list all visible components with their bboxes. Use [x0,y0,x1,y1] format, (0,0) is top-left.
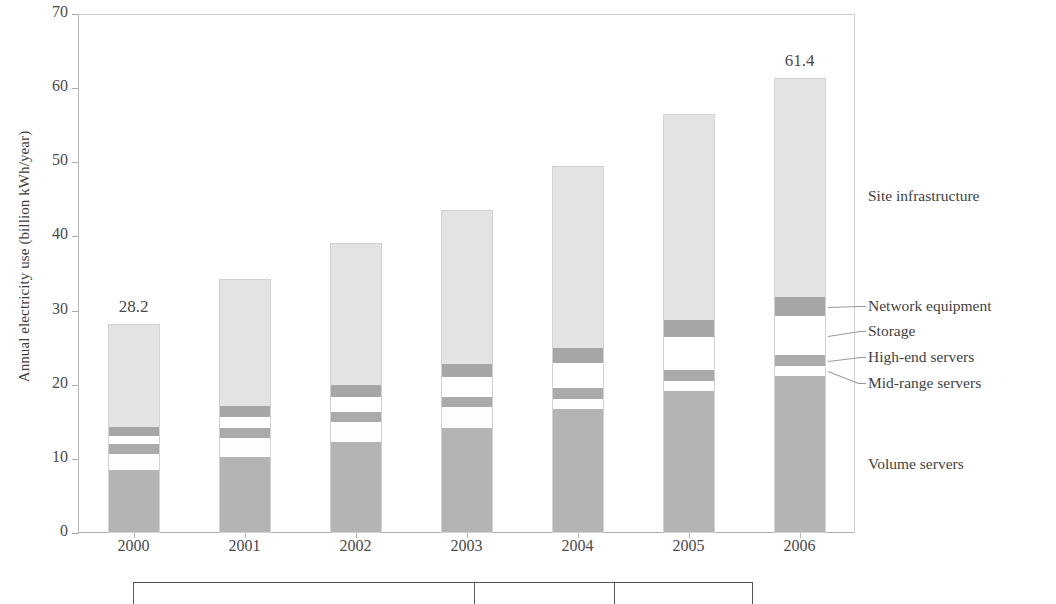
bar-segment-storage[interactable] [219,417,271,429]
footer-table-stub [133,582,753,604]
y-tick-label: 50 [22,151,68,169]
bar-segment-site-infrastructure[interactable] [441,210,493,364]
y-tick-label: 40 [22,225,68,243]
x-tick-label-2006: 2006 [755,537,845,555]
bar-segment-storage[interactable] [663,337,715,370]
bar-segment-storage[interactable] [441,377,493,396]
bar-segment-mid-range-servers[interactable] [552,399,604,409]
bar-segment-network-equipment[interactable] [330,385,382,397]
bar-segment-mid-range-servers[interactable] [108,454,160,470]
bar-segment-site-infrastructure[interactable] [663,114,715,320]
x-tick-label-2000: 2000 [89,537,179,555]
chart-canvas: Annual electricity use (billion kWh/year… [0,0,1056,604]
bar-2004[interactable] [552,166,604,533]
bar-segment-site-infrastructure[interactable] [219,279,271,407]
bar-2002[interactable] [330,243,382,533]
bar-2001[interactable] [219,279,271,533]
legend-leader-tick [858,331,866,332]
bar-segment-network-equipment[interactable] [219,406,271,416]
bar-segment-volume-servers[interactable] [330,442,382,533]
bar-segment-high-end-servers[interactable] [774,355,826,366]
bar-segment-network-equipment[interactable] [663,320,715,337]
bar-2000[interactable] [108,324,160,533]
bar-segment-network-equipment[interactable] [108,427,160,436]
bar-segment-mid-range-servers[interactable] [441,407,493,429]
bar-value-label-2006: 61.4 [755,51,845,71]
legend-label-site-infrastructure[interactable]: Site infrastructure [868,187,979,205]
table-column-divider-2 [614,583,615,604]
bar-2006[interactable] [774,78,826,533]
y-axis-title: Annual electricity use (billion kWh/year… [16,47,33,467]
bar-segment-high-end-servers[interactable] [108,444,160,454]
x-tick-label-2005: 2005 [644,537,734,555]
bar-segment-high-end-servers[interactable] [219,428,271,438]
bar-value-label-2000: 28.2 [89,297,179,317]
x-tick-label-2004: 2004 [533,537,623,555]
bar-segment-network-equipment[interactable] [552,348,604,363]
legend-label-volume-servers[interactable]: Volume servers [868,455,964,473]
bar-segment-volume-servers[interactable] [219,457,271,533]
bar-segment-volume-servers[interactable] [441,428,493,533]
bar-segment-site-infrastructure[interactable] [108,324,160,427]
bar-segment-mid-range-servers[interactable] [330,422,382,442]
bar-segment-high-end-servers[interactable] [663,370,715,381]
bar-segment-volume-servers[interactable] [552,409,604,533]
legend-label-high-end-servers[interactable]: High-end servers [868,348,974,366]
y-tick-label: 10 [22,448,68,466]
y-tick-label: 0 [22,522,68,540]
table-column-divider-1 [474,583,475,604]
bar-segment-storage[interactable] [330,397,382,413]
bar-segment-storage[interactable] [552,363,604,388]
y-tick-label: 60 [22,77,68,95]
bar-segment-network-equipment[interactable] [441,364,493,377]
x-tick-label-2001: 2001 [200,537,290,555]
bar-segment-mid-range-servers[interactable] [663,381,715,391]
bar-segment-storage[interactable] [774,316,826,355]
legend-label-storage[interactable]: Storage [868,322,915,340]
bar-2003[interactable] [441,210,493,533]
x-tick-label-2003: 2003 [422,537,512,555]
bar-segment-network-equipment[interactable] [774,297,826,316]
bar-segment-site-infrastructure[interactable] [552,166,604,348]
y-tick-label: 30 [22,300,68,318]
bar-segment-volume-servers[interactable] [108,470,160,533]
bar-segment-site-infrastructure[interactable] [330,243,382,385]
legend-label-mid-range-servers[interactable]: Mid-range servers [868,374,981,392]
legend-leader-tick [858,306,866,307]
bar-2005[interactable] [663,114,715,533]
bar-segment-volume-servers[interactable] [774,376,826,533]
y-tick-label: 20 [22,374,68,392]
y-tick-label: 70 [22,3,68,21]
bar-segment-high-end-servers[interactable] [552,388,604,398]
bar-segment-mid-range-servers[interactable] [219,438,271,457]
y-tick-mark [72,533,79,534]
legend-label-network-equipment[interactable]: Network equipment [868,297,992,315]
bar-segment-site-infrastructure[interactable] [774,78,826,297]
legend-leader-tick [858,357,866,358]
x-tick-label-2002: 2002 [311,537,401,555]
bar-segment-storage[interactable] [108,436,160,444]
bar-segment-high-end-servers[interactable] [330,412,382,422]
bar-segment-high-end-servers[interactable] [441,397,493,407]
legend-leader-tick [858,383,866,384]
bar-segment-mid-range-servers[interactable] [774,366,826,376]
bar-segment-volume-servers[interactable] [663,391,715,533]
